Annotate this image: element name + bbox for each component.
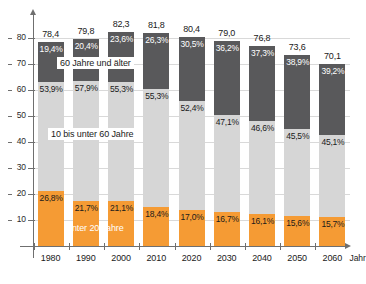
segment-60-und-aelter-2030: 36,2% (214, 41, 240, 115)
bar-1990: 21,7%57,9%20,4% (73, 39, 99, 246)
y-axis-tick-dash (8, 194, 12, 195)
segment-label-unter-20: 21,7% (75, 203, 98, 213)
segment-label-60-und-aelter: 26,3% (145, 35, 168, 45)
y-axis-tick-label: 60 (4, 84, 26, 94)
x-axis-label-2040: 2040 (244, 253, 280, 263)
segment-label-10-bis-unter-60: 45,1% (321, 137, 344, 147)
total-label-2050: 73,6 (278, 42, 316, 52)
segment-label-60-und-aelter: 23,6% (110, 34, 133, 44)
x-axis-label-2020: 2020 (174, 253, 210, 263)
segment-10-bis-unter-60-2040: 46,6% (249, 121, 275, 214)
segment-label-60-und-aelter: 39,2% (321, 66, 344, 76)
segment-label-10-bis-unter-60: 45,5% (286, 131, 309, 141)
y-axis-tick-label: 10 (4, 214, 26, 224)
segment-label-60-und-aelter: 37,3% (251, 48, 274, 58)
x-axis-label-2060: 2060 (314, 253, 350, 263)
segment-unter-20-2040: 16,1% (249, 214, 275, 246)
segment-unter-20-2020: 17,0% (179, 210, 205, 246)
segment-label-unter-20: 15,6% (286, 218, 309, 228)
bar-1980: 26,8%53,9%19,4% (38, 42, 64, 246)
segment-label-60-und-aelter: 20,4% (75, 41, 98, 51)
segment-10-bis-unter-60-2010: 55,3% (143, 89, 169, 207)
total-label-2030: 79,0 (208, 28, 246, 38)
segment-unter-20-2060: 15,7% (319, 217, 345, 246)
segment-unter-20-2010: 18,4% (143, 207, 169, 246)
y-axis-tick-label: 40 (4, 136, 26, 146)
segment-60-und-aelter-2050: 38,9% (284, 55, 310, 129)
segment-label-unter-20: 26,8% (40, 193, 63, 203)
y-axis-tick-dash (8, 168, 12, 169)
segment-60-und-aelter-2060: 39,2% (319, 64, 345, 136)
segment-10-bis-unter-60-2030: 47,1% (214, 115, 240, 212)
y-axis-tick-label: 50 (4, 110, 26, 120)
y-axis-tick-label: 80 (4, 32, 26, 42)
segment-unter-20-2030: 16,7% (214, 212, 240, 246)
x-axis-label-2030: 2030 (209, 253, 245, 263)
bar-2020: 17,0%52,4%30,5% (179, 37, 205, 246)
segment-label-unter-20: 21,1% (110, 203, 133, 213)
y-axis-tick-label: 20 (4, 188, 26, 198)
x-axis-title: Jahr (349, 253, 366, 263)
segment-label-10-bis-unter-60: 46,6% (251, 123, 274, 133)
total-label-2010: 81,8 (137, 20, 175, 30)
total-label-2040: 76,8 (243, 33, 281, 43)
segment-10-bis-unter-60-2000: 55,3% (108, 82, 134, 200)
total-label-1980: 78,4 (32, 29, 70, 39)
x-axis-label-2000: 2000 (103, 253, 139, 263)
callout-unter-20-jahre: unter 20 Jahre (64, 222, 127, 234)
segment-label-10-bis-unter-60: 47,1% (216, 117, 239, 127)
segment-label-unter-20: 18,4% (145, 209, 168, 219)
y-axis-tick-dash (8, 220, 12, 221)
y-axis-tick-label: 30 (4, 162, 26, 172)
y-axis-tick-dash (8, 116, 12, 117)
total-label-2060: 70,1 (313, 51, 351, 61)
x-axis-label-2050: 2050 (279, 253, 315, 263)
y-axis-tick-dash (8, 64, 12, 65)
segment-label-60-und-aelter: 36,2% (216, 43, 239, 53)
y-axis-tick-dash (8, 38, 12, 39)
segment-label-10-bis-unter-60: 52,4% (181, 103, 204, 113)
total-label-2020: 80,4 (173, 24, 211, 34)
segment-label-10-bis-unter-60: 53,9% (40, 84, 63, 94)
segment-label-unter-20: 17,0% (181, 212, 204, 222)
segment-10-bis-unter-60-2050: 45,5% (284, 129, 310, 216)
x-axis-label-1990: 1990 (68, 253, 104, 263)
segment-10-bis-unter-60-2060: 45,1% (319, 135, 345, 217)
segment-10-bis-unter-60-1990: 57,9% (73, 81, 99, 201)
total-label-2000: 82,3 (102, 19, 140, 29)
callout-60-und-aelter: 60 Jahre und älter (57, 57, 134, 69)
bar-2030: 16,7%47,1%36,2% (214, 41, 240, 246)
x-axis-label-2010: 2010 (138, 253, 174, 263)
bar-2040: 16,1%46,6%37,3% (249, 46, 275, 246)
segment-label-60-und-aelter: 38,9% (286, 57, 309, 67)
segment-label-60-und-aelter: 19,4% (40, 44, 63, 54)
bar-2050: 15,6%45,5%38,9% (284, 55, 310, 246)
segment-60-und-aelter-2010: 26,3% (143, 33, 169, 89)
segment-label-10-bis-unter-60: 55,3% (145, 91, 168, 101)
segment-unter-20-1980: 26,8% (38, 191, 64, 246)
y-axis-tick-label: 70 (4, 58, 26, 68)
segment-label-unter-20: 16,1% (251, 216, 274, 226)
segment-unter-20-2050: 15,6% (284, 216, 310, 246)
segment-60-und-aelter-2040: 37,3% (249, 46, 275, 120)
segment-label-unter-20: 15,7% (321, 219, 344, 229)
segment-label-10-bis-unter-60: 57,9% (75, 83, 98, 93)
y-axis-tick-dash (8, 142, 12, 143)
segment-60-und-aelter-2020: 30,5% (179, 37, 205, 101)
segment-10-bis-unter-60-2020: 52,4% (179, 101, 205, 210)
segment-label-10-bis-unter-60: 55,3% (110, 84, 133, 94)
bar-2010: 18,4%55,3%26,3% (143, 33, 169, 246)
bar-2060: 15,7%45,1%39,2% (319, 64, 345, 246)
y-axis-tick-dash (8, 90, 12, 91)
segment-label-unter-20: 16,7% (216, 214, 239, 224)
callout-10-bis-unter-60: 10 bis unter 60 Jahre (48, 128, 136, 140)
total-label-1990: 79,8 (67, 26, 105, 36)
x-axis-label-1980: 1980 (33, 253, 69, 263)
segment-label-60-und-aelter: 30,5% (181, 39, 204, 49)
